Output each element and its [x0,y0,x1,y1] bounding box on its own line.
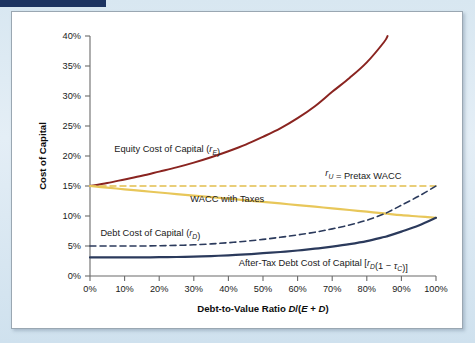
x-tick-label: 80% [358,284,376,294]
svg-text:Debt-to-Value Ratio D/(E + D): Debt-to-Value Ratio D/(E + D) [197,303,328,314]
chart-card: 0%5%10%15%20%25%30%35%40% 0%10%20%30%40%… [11,11,463,329]
axes [85,36,436,281]
y-tick-label: 15% [63,181,81,191]
after-tax-debt-cost-label: After-Tax Debt Cost of Capital [rD(1 − τ… [239,258,408,272]
x-tick-label: 60% [288,284,306,294]
cost-of-capital-chart: 0%5%10%15%20%25%30%35%40% 0%10%20%30%40%… [12,12,464,330]
x-axis-title-main: Debt-to-Value Ratio [197,303,286,314]
x-tick-label: 50% [254,284,272,294]
x-axis-title-plus: + [308,303,319,314]
wacc-with-taxes-label: WACC with Taxes [190,194,264,204]
x-axis-tick-labels: 0%10%20%30%40%50%60%70%80%90%100% [83,284,447,294]
x-tick-label: 30% [185,284,203,294]
figure-container: 0%5%10%15%20%25%30%35%40% 0%10%20%30%40%… [0,0,475,343]
x-tick-label: 70% [323,284,341,294]
x-tick-label: 0% [83,284,96,294]
accent-bar [0,0,106,7]
x-tick-label: 20% [150,284,168,294]
x-axis-ticks [90,276,436,281]
y-tick-label: 25% [63,121,81,131]
y-axis-tick-labels: 0%5%10%15%20%25%30%35%40% [63,31,81,281]
y-axis-title: Cost of Capital [37,122,48,190]
y-tick-label: 30% [63,91,81,101]
y-axis-ticks [85,36,90,276]
x-axis-title-close: ) [326,303,329,314]
x-axis-title: Debt-to-Value Ratio D/(E + D) [197,303,328,314]
plot-area-wrapper: 0%5%10%15%20%25%30%35%40% 0%10%20%30%40%… [12,12,464,330]
x-tick-label: 40% [219,284,237,294]
y-tick-label: 40% [63,31,81,41]
x-tick-label: 100% [424,284,448,294]
debt-cost-label: Debt Cost of Capital (rD) [100,228,200,240]
y-tick-label: 0% [68,271,81,281]
equity-cost-label: Equity Cost of Capital (rE) [114,144,220,156]
x-tick-label: 10% [115,284,133,294]
series-line [90,36,388,186]
y-tick-label: 20% [63,151,81,161]
y-tick-label: 5% [68,241,81,251]
y-tick-label: 35% [63,61,81,71]
x-tick-label: 90% [392,284,410,294]
y-tick-label: 10% [63,211,81,221]
pretax-wacc-label: rU = Pretax WACC [325,168,401,180]
